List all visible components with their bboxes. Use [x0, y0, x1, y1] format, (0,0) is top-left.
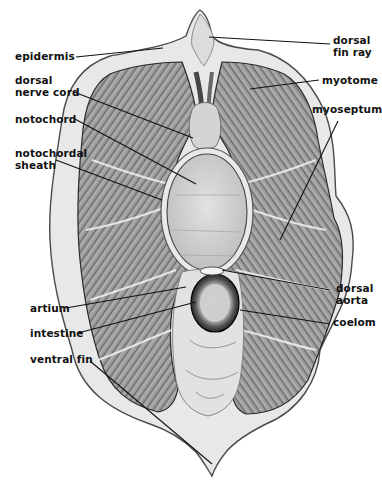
label-intestine: intestine	[30, 327, 84, 339]
label-coelom: coelom	[333, 316, 376, 328]
leader-dorsal-fin-ray	[209, 37, 330, 44]
dorsal-aorta	[200, 267, 224, 275]
label-dorsal-fin-ray: dorsal fin ray	[333, 34, 372, 58]
label-myoseptum: myoseptum	[312, 103, 382, 115]
dorsal-nerve-cord	[189, 103, 221, 150]
label-ventral-fin: ventral fin	[30, 353, 93, 365]
label-dorsal-aorta: dorsal aorta	[336, 282, 373, 306]
label-dorsal-nerve-cord: dorsal nerve cord	[15, 74, 80, 98]
label-epidermis: epidermis	[15, 50, 75, 62]
notochord	[167, 154, 247, 270]
label-notochordal-sheath: notochordal sheath	[15, 147, 87, 171]
label-notochord: notochord	[15, 113, 76, 125]
label-artium: artium	[30, 302, 70, 314]
label-myotome: myotome	[322, 74, 378, 86]
